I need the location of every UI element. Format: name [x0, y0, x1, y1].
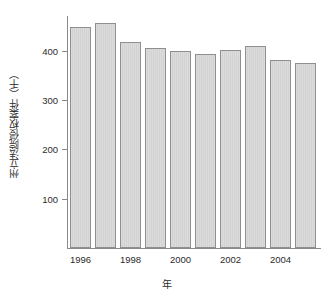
- bar: [145, 48, 166, 248]
- bar-chart-figure: 州立法院侵权案件（千） 100200300400 199619982000200…: [0, 0, 333, 298]
- y-axis-tick-mark: [62, 149, 67, 150]
- bar: [120, 42, 141, 248]
- x-axis-tick-label: 2004: [270, 254, 291, 265]
- bar: [195, 54, 216, 248]
- y-axis-tick-mark: [62, 51, 67, 52]
- bar: [170, 51, 191, 248]
- x-axis-tick-label: 1998: [120, 254, 141, 265]
- y-axis-tick-label: 400: [32, 45, 58, 56]
- y-axis-title: 州立法院侵权案件（千）: [4, 0, 26, 248]
- plot-area: [68, 16, 318, 248]
- y-axis-tick-label: 200: [32, 144, 58, 155]
- y-axis-tick-mark: [62, 100, 67, 101]
- y-axis-title-text: 州立法院侵权案件（千）: [10, 69, 20, 179]
- bar: [295, 63, 316, 248]
- y-axis-tick-mark: [62, 199, 67, 200]
- y-axis-tick-label: 300: [32, 94, 58, 105]
- x-axis-line: [67, 248, 321, 249]
- x-axis-title: 年: [0, 276, 333, 291]
- x-axis-tick-label: 2002: [220, 254, 241, 265]
- bar: [70, 27, 91, 248]
- x-axis-tick-labels: 19961998200020022004: [0, 254, 333, 268]
- x-axis-tick-label: 2000: [170, 254, 191, 265]
- x-axis-tick-label: 1996: [70, 254, 91, 265]
- bar: [245, 46, 266, 248]
- y-axis-tick-label: 100: [32, 193, 58, 204]
- bar: [95, 23, 116, 248]
- bar: [270, 60, 291, 248]
- bar: [220, 50, 241, 248]
